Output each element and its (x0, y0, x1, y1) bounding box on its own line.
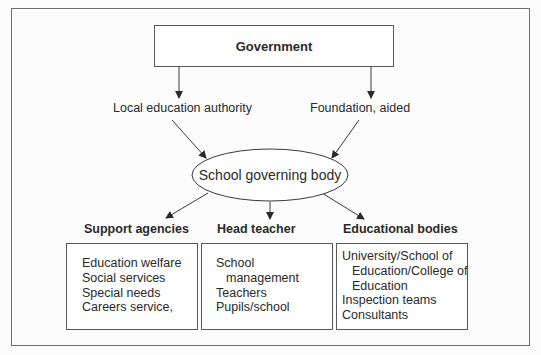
list-item: Education welfare (82, 256, 181, 271)
list-item: Social services (82, 271, 181, 286)
government-label: Government (236, 39, 313, 54)
list-item: Education/College of (342, 264, 467, 279)
list-item: Special needs (82, 286, 181, 301)
support-agencies-header: Support agencies (84, 222, 189, 236)
route-local-education-authority: Local education authority (113, 101, 252, 115)
head-teacher-header: Head teacher (217, 222, 296, 236)
school-governing-body-node: School governing body (192, 149, 348, 201)
list-item: University/School of (342, 249, 467, 264)
list-item: Inspection teams (342, 293, 467, 308)
list-item: management (216, 271, 299, 286)
educational-bodies-list: University/School of Education/College o… (342, 249, 467, 323)
government-node: Government (154, 25, 394, 67)
list-item: Pupils/school (216, 300, 299, 315)
educational-bodies-header: Educational bodies (343, 222, 458, 236)
school-governing-body-label: School governing body (199, 167, 341, 183)
list-item: Education (342, 279, 467, 294)
support-agencies-list: Education welfare Social services Specia… (82, 256, 181, 315)
head-teacher-list: School management Teachers Pupils/school (216, 256, 299, 315)
list-item: Consultants (342, 308, 467, 323)
route-foundation-aided: Foundation, aided (310, 101, 410, 115)
list-item: Careers service, (82, 300, 181, 315)
list-item: School (216, 256, 299, 271)
list-item: Teachers (216, 286, 299, 301)
